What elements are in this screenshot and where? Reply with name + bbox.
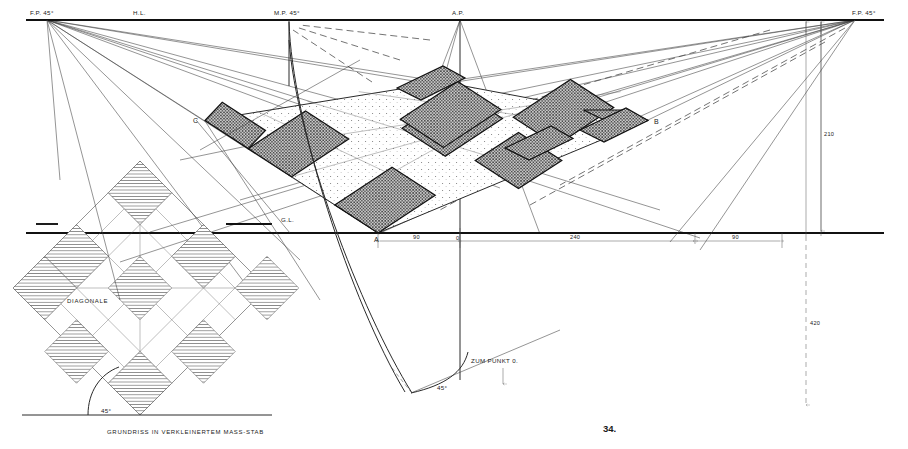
label-diagonale: DIAGONALE	[67, 298, 108, 304]
label-ground: G.L.	[281, 216, 294, 223]
label-horizon: H.L.	[133, 9, 146, 16]
label-angle-plan: 45°	[101, 407, 112, 414]
label-dim-420: 420	[810, 320, 820, 326]
label-dim-90-left: 90	[413, 234, 420, 240]
label-point-o: 0	[456, 235, 459, 241]
figure-number: 34.	[603, 423, 616, 434]
label-angle-bottom: 45°	[437, 384, 448, 391]
caption-plan: GRUNDRISS IN VERKLEINERTEM MASS-STAB	[107, 429, 264, 435]
label-dim-90-right: 90	[732, 234, 739, 240]
perspective-construction-drawing: F.P. 45° H.L. M.P. 45° A.P. F.P. 45° G.L…	[0, 0, 908, 449]
label-mp: M.P. 45°	[274, 9, 300, 16]
label-zum-punkt: ZUM PUNKT 0.	[471, 357, 518, 364]
label-dim-240: 240	[570, 234, 580, 240]
label-point-a: A	[374, 236, 379, 243]
label-fp-right: F.P. 45°	[852, 9, 876, 16]
label-dim-210: 210	[824, 131, 834, 137]
label-fp-left: F.P. 45°	[30, 9, 54, 16]
label-ap: A.P.	[452, 9, 464, 16]
label-point-b: B	[654, 118, 659, 125]
label-point-c: C	[193, 117, 198, 124]
